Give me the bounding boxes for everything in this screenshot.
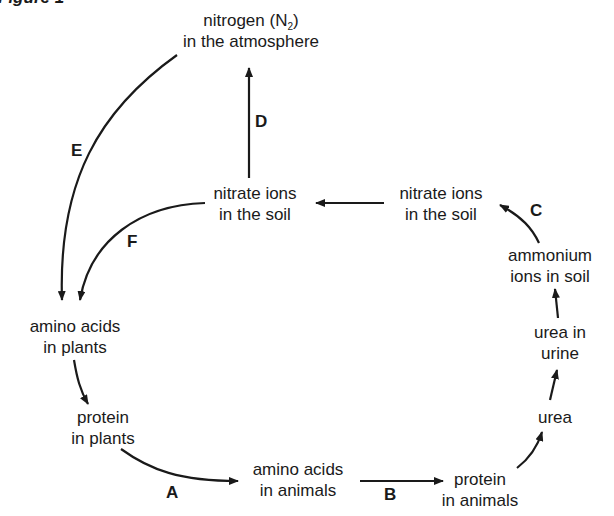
- node-nitrate-left: nitrate ions in the soil: [200, 183, 310, 225]
- node-nitrogen-atmosphere: nitrogen (N2) in the atmosphere: [181, 10, 321, 52]
- node-nitrate-right: nitrate ions in the soil: [386, 183, 496, 225]
- arrow-a: [121, 449, 238, 481]
- process-label-d: D: [255, 112, 267, 132]
- process-label-b: B: [384, 485, 396, 505]
- arrow-e: [62, 55, 177, 300]
- node-protein-plants: protein in plants: [58, 407, 148, 449]
- node-protein-animals: protein in animals: [430, 469, 530, 511]
- node-amino-acids-animals: amino acids in animals: [238, 459, 358, 501]
- arrow-aaplants-protplants: [74, 360, 88, 404]
- process-label-a: A: [166, 483, 178, 503]
- arrow-urine-ammonium: [555, 289, 558, 318]
- arrow-protanim-urea: [517, 432, 542, 468]
- node-urea-in-urine: urea in urine: [520, 322, 600, 364]
- process-label-f: F: [127, 232, 137, 252]
- arrow-urea-urine: [550, 370, 557, 400]
- node-ammonium: ammonium ions in soil: [495, 245, 605, 287]
- arrow-f: [80, 203, 205, 300]
- node-urea: urea: [525, 407, 585, 428]
- process-label-e: E: [71, 141, 82, 161]
- node-amino-acids-plants: amino acids in plants: [15, 316, 135, 358]
- process-label-c: C: [530, 201, 542, 221]
